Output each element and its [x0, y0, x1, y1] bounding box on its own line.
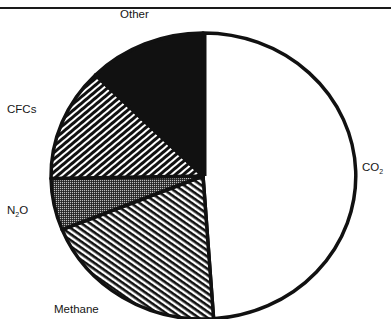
label-methane: Methane — [54, 303, 99, 315]
label-other: Other — [120, 8, 149, 20]
label-co2: CO2 — [362, 161, 383, 175]
label-n2o: N2O — [7, 204, 28, 218]
slice-co2 — [203, 33, 356, 319]
pie-chart — [0, 0, 391, 319]
label-cfcs: CFCs — [7, 103, 36, 115]
